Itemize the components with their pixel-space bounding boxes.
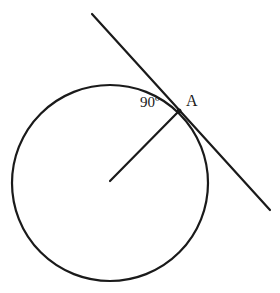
tangent-circle-diagram: 90º A: [0, 0, 280, 293]
angle-label: 90º: [140, 94, 160, 110]
radius-line: [110, 111, 179, 181]
point-a-label: A: [186, 92, 198, 109]
circle: [12, 85, 208, 281]
point-a-dot: [177, 109, 182, 114]
